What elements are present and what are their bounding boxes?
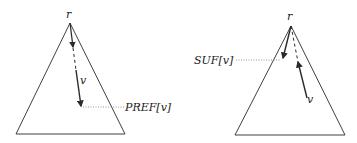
suf-label: SUF[v] — [194, 54, 234, 67]
left-tree: r v PREF[v] — [16, 8, 172, 134]
right-root-label: r — [287, 10, 293, 23]
right-path-lower — [298, 62, 307, 98]
left-tree-triangle — [16, 23, 125, 134]
right-tree-triangle — [235, 26, 345, 135]
right-path-dashed — [291, 26, 298, 62]
left-root-label: r — [66, 8, 72, 21]
left-path-dashed — [73, 48, 76, 70]
pref-label: PREF[v] — [124, 101, 172, 114]
right-tree: r v SUF[v] — [194, 10, 345, 135]
right-suf-branch — [283, 26, 291, 58]
right-node-label: v — [307, 93, 314, 106]
tree-diagram: r v PREF[v] r v SUF[v] — [0, 0, 357, 143]
left-node-label: v — [80, 74, 87, 87]
